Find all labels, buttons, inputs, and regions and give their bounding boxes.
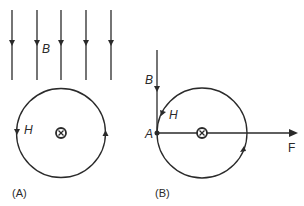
field-line xyxy=(58,10,64,80)
h-arrow-left-icon xyxy=(14,129,20,135)
current-into-page-icon xyxy=(56,128,66,138)
force-arrow xyxy=(157,129,298,137)
force-label: F xyxy=(288,142,295,154)
panel-b-h-label: H xyxy=(169,109,178,121)
magnetic-field-diagram: B H (A) B H A F (B) xyxy=(0,0,304,206)
panel-b-field-label: B xyxy=(145,74,153,86)
field-line xyxy=(108,10,114,80)
field-line xyxy=(9,10,15,80)
panel-a-h-label: H xyxy=(24,124,33,136)
panel-b-caption: (B) xyxy=(155,188,170,199)
diagram-canvas xyxy=(0,0,304,206)
field-line xyxy=(34,10,40,80)
point-a-dot xyxy=(155,131,160,136)
field-line xyxy=(83,10,89,80)
panel-a-field-label: B xyxy=(42,43,50,55)
panel-a-caption: (A) xyxy=(12,188,27,199)
h-arrow-right-icon xyxy=(103,130,109,136)
current-into-page-icon xyxy=(197,128,207,138)
panel-a-field-lines xyxy=(9,10,114,80)
point-a-label: A xyxy=(145,128,153,140)
